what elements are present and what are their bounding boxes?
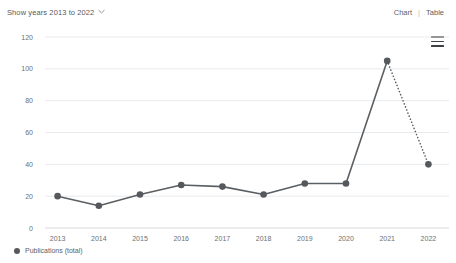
data-point-marker[interactable]: [384, 58, 391, 65]
data-point-marker[interactable]: [137, 191, 144, 198]
data-point-marker[interactable]: [96, 202, 103, 209]
legend-label: Publications (total): [25, 247, 83, 254]
data-point-marker[interactable]: [54, 193, 61, 200]
y-axis-tick-labels: 020406080100120: [21, 34, 33, 232]
series-line-dotted-projection: [387, 61, 428, 164]
data-point-marker[interactable]: [219, 183, 226, 190]
data-point-marker[interactable]: [343, 180, 350, 187]
x-axis-tick-label: 2017: [215, 235, 231, 242]
y-axis-tick-label: 40: [25, 161, 33, 168]
series-markers: [54, 58, 431, 209]
legend-item-publications[interactable]: Publications (total): [14, 247, 83, 254]
data-point-marker[interactable]: [260, 191, 267, 198]
y-axis-tick-label: 100: [21, 65, 33, 72]
x-axis-tick-label: 2022: [421, 235, 437, 242]
x-axis-tick-label: 2014: [91, 235, 107, 242]
x-axis-tick-label: 2015: [132, 235, 148, 242]
gridlines: [45, 37, 449, 228]
x-axis-tick-label: 2020: [338, 235, 354, 242]
y-axis-tick-label: 80: [25, 97, 33, 104]
y-axis-tick-label: 120: [21, 34, 33, 41]
x-axis-tick-label: 2016: [173, 235, 189, 242]
chart-widget: Show years 2013 to 2022 Chart | Table 02…: [0, 0, 456, 263]
x-axis-tick-label: 2019: [297, 235, 313, 242]
series-paths: [58, 61, 429, 206]
data-point-marker[interactable]: [425, 161, 432, 168]
x-axis-tick-labels: 2013201420152016201720182019202020212022: [50, 235, 436, 242]
data-point-marker[interactable]: [302, 180, 309, 187]
y-axis-tick-label: 20: [25, 193, 33, 200]
x-axis-tick-label: 2021: [379, 235, 395, 242]
circle-marker-icon: [14, 248, 20, 254]
data-point-marker[interactable]: [178, 182, 185, 189]
x-axis-tick-label: 2013: [50, 235, 66, 242]
y-axis-tick-label: 60: [25, 129, 33, 136]
y-axis-tick-label: 0: [29, 225, 33, 232]
line-chart-plot: 020406080100120 201320142015201620172018…: [0, 0, 456, 263]
x-axis-tick-label: 2018: [256, 235, 272, 242]
